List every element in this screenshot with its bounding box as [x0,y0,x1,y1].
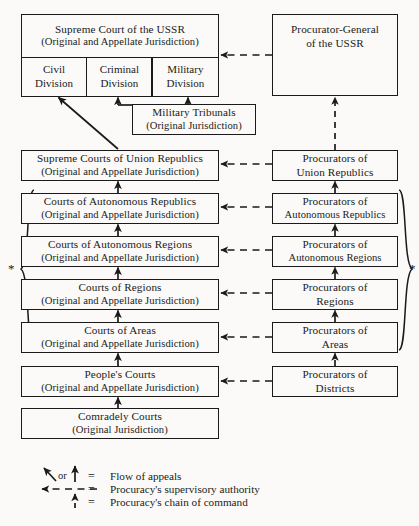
procuracy-box-procurators-union-republics[interactable]: Procurators of Union Republics [272,150,398,181]
court-title: Supreme Court of the USSR [55,23,185,37]
procuracy-box-procurators-autonomous-republics[interactable]: Procurators of Autonomous Republics [272,193,398,224]
court-title: People's Courts [85,368,156,382]
court-jurisdiction: (Original and Appellate Jurisdiction) [41,338,198,351]
procuracy-title: Procurators of [302,368,367,382]
procuracy-subtitle: Autonomous Republics [285,209,386,222]
procuracy-title: Procurators of [302,324,367,338]
court-title: Courts of Autonomous Republics [44,195,196,209]
procuracy-title: Procurators of [302,152,367,166]
division-title: Civil [43,63,65,77]
court-box-supreme-court-ussr[interactable]: Supreme Court of the USSR (Original and … [21,14,219,58]
court-jurisdiction: (Original Jurisdiction) [72,424,168,437]
court-jurisdiction: (Original and Appellate Jurisdiction) [41,209,198,222]
footnote-asterisk-left: * [8,262,15,275]
procuracy-box-procurator-general-ussr[interactable]: Procurator-General of the USSR [272,14,398,96]
legend-item-supervisory-authority: Procuracy's supervisory authority [110,483,260,495]
division-title: Criminal [100,63,139,77]
court-title: Courts of Areas [84,324,156,338]
procuracy-box-procurators-regions[interactable]: Procurators of Regions [272,279,398,310]
procuracy-title: Procurator-General [291,23,379,37]
legend-or-label: or [58,470,67,481]
court-jurisdiction: (Original and Appellate Jurisdiction) [41,166,198,179]
procuracy-title: Procurators of [302,238,367,252]
court-box-comradely-courts[interactable]: Comradely Courts (Original Jurisdiction) [21,408,219,439]
procuracy-subtitle: Autonomous Regions [288,252,381,265]
court-title: Comradely Courts [78,410,162,424]
court-title: Military Tribunals [152,106,236,120]
court-box-peoples-courts[interactable]: People's Courts (Original and Appellate … [21,366,219,397]
court-jurisdiction: (Original and Appellate Jurisdiction) [41,36,198,49]
procuracy-box-procurators-autonomous-regions[interactable]: Procurators of Autonomous Regions [272,236,398,267]
court-box-courts-autonomous-republics[interactable]: Courts of Autonomous Republics (Original… [21,193,219,224]
legend-item-chain-of-command: Procuracy's chain of command [110,496,248,508]
court-jurisdiction: (Original and Appellate Jurisdiction) [41,382,198,395]
court-box-military-tribunals[interactable]: Military Tribunals (Original Jurisdictio… [132,104,256,135]
court-box-supreme-courts-union-republics[interactable]: Supreme Courts of Union Republics (Origi… [21,150,219,181]
court-box-courts-regions[interactable]: Courts of Regions (Original and Appellat… [21,279,219,310]
court-box-courts-autonomous-regions[interactable]: Courts of Autonomous Regions (Original a… [21,236,219,267]
division-subtitle: Division [35,77,73,91]
court-jurisdiction: (Original Jurisdiction) [146,120,242,133]
procuracy-subtitle: Regions [316,295,353,309]
footnote-asterisk-right: * [409,262,416,275]
division-cell-civil-division[interactable]: Civil Division [21,57,87,97]
court-jurisdiction: (Original and Appellate Jurisdiction) [41,295,198,308]
procuracy-subtitle: Union Republics [296,166,373,180]
legend-equals-chain: = [88,495,95,510]
diagram-canvas: Supreme Court of the USSR (Original and … [0,0,419,526]
procuracy-box-procurators-districts[interactable]: Procurators of Districts [272,366,398,397]
legend-diagonal-arrow-icon [44,468,56,481]
court-title: Courts of Autonomous Regions [48,238,192,252]
legend-item-flow-of-appeals: Flow of appeals [110,470,181,482]
procuracy-subtitle: Districts [316,382,355,396]
procuracy-title: Procurators of [302,281,367,295]
division-title: Military [167,63,203,77]
court-title: Supreme Courts of Union Republics [37,152,203,166]
division-cell-criminal-division[interactable]: Criminal Division [86,57,152,97]
division-subtitle: Division [100,77,138,91]
procuracy-title: Procurators of [302,195,367,209]
procuracy-subtitle: Areas [322,338,349,352]
division-subtitle: Division [166,77,204,91]
procuracy-subtitle: of the USSR [306,37,364,51]
court-box-courts-areas[interactable]: Courts of Areas (Original and Appellate … [21,322,219,353]
procuracy-box-procurators-areas[interactable]: Procurators of Areas [272,322,398,353]
court-jurisdiction: (Original and Appellate Jurisdiction) [41,252,198,265]
division-cell-military-division[interactable]: Military Division [152,57,219,97]
court-title: Courts of Regions [78,281,161,295]
